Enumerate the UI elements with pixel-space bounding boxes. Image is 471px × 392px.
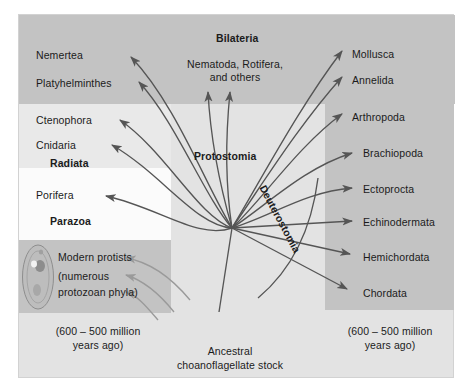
protist-illustration: [23, 245, 54, 309]
label-nematoda-rotifera-line1: Nematoda, Rotifera,: [176, 58, 294, 70]
taxon-arthropoda: Arthropoda: [352, 111, 405, 123]
taxon-ectoprocta: Ectoprocta: [363, 183, 414, 195]
root-stem: [219, 228, 232, 312]
label-protostomia: Protostomia: [194, 150, 256, 162]
timescale-left-line1: (600 – 500 million: [26, 325, 170, 337]
label-protists-line3: protozoan phyla): [58, 286, 138, 298]
label-nematoda-rotifera-line2: and others: [176, 71, 294, 83]
timescale-right-line2: years ago): [330, 339, 450, 351]
taxon-nemertea: Nemertea: [36, 49, 83, 61]
deuterostome-branches: [232, 153, 352, 289]
taxon-annelida: Annelida: [352, 74, 394, 86]
label-parazoa: Parazoa: [50, 215, 91, 227]
label-modern-protists: Modern protists: [58, 251, 132, 263]
label-protists-line2: (numerous: [58, 270, 109, 282]
taxon-chordata: Chordata: [363, 287, 407, 299]
timescale-left-line2: years ago): [26, 339, 170, 351]
taxon-porifera: Porifera: [36, 189, 74, 201]
taxon-ctenophora: Ctenophora: [36, 114, 92, 126]
timescale-right-line1: (600 – 500 million: [330, 325, 450, 337]
taxon-brachiopoda: Brachiopoda: [363, 147, 423, 159]
taxon-platyhelminthes: Platyhelminthes: [36, 77, 112, 89]
taxon-cnidaria: Cnidaria: [36, 139, 76, 151]
taxon-mollusca: Mollusca: [352, 48, 394, 60]
label-ancestral-line2: choanoflagellate stock: [160, 359, 300, 371]
taxon-echinodermata: Echinodermata: [363, 216, 435, 228]
phylogenetic-tree-figure: Bilateria Nematoda, Rotifera, and others…: [0, 0, 471, 392]
label-ancestral-line1: Ancestral: [160, 345, 300, 357]
radiata-parazoa-branches: [106, 120, 232, 231]
label-bilateria: Bilateria: [216, 32, 258, 44]
taxon-hemichordata: Hemichordata: [363, 251, 430, 263]
label-radiata: Radiata: [50, 157, 89, 169]
